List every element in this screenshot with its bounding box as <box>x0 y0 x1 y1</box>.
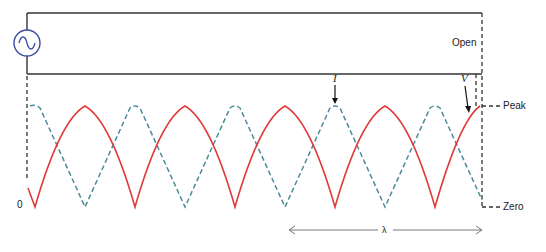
origin-label: 0 <box>17 199 23 210</box>
standing-wave-diagram: Open Peak Zero 0 I V λ <box>0 0 546 252</box>
open-label: Open <box>452 37 476 48</box>
voltage-arrow-icon <box>465 86 471 113</box>
voltage-curve <box>28 106 480 207</box>
current-arrow-icon <box>332 85 338 104</box>
reference-lines <box>27 13 500 207</box>
ac-source-icon <box>14 30 40 56</box>
wavelength-label: λ <box>382 225 387 235</box>
current-curve <box>30 105 482 207</box>
zero-label: Zero <box>503 201 524 212</box>
peak-label: Peak <box>503 100 527 111</box>
transmission-line <box>27 13 482 74</box>
